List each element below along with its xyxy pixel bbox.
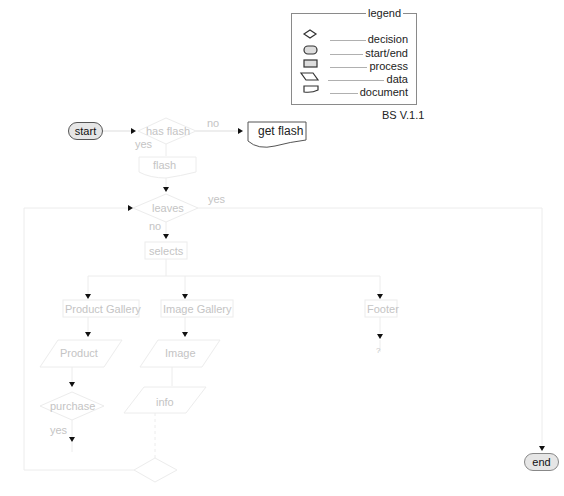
info-node[interactable]: info <box>156 396 174 409</box>
legend-item-decision: decision <box>292 33 416 46</box>
footer-next-node: ? <box>376 344 380 357</box>
edge-label-no: no <box>207 117 219 130</box>
flash-node[interactable]: flash <box>153 159 176 172</box>
leaves-node[interactable]: leaves <box>152 202 184 215</box>
flowchart-canvas <box>0 0 564 496</box>
edge-label-yes: yes <box>135 138 152 151</box>
image-node[interactable]: Image <box>165 347 196 360</box>
edge-label-no: no <box>149 220 161 233</box>
legend-item-start-end: start/end <box>292 47 416 60</box>
product-node[interactable]: Product <box>60 347 98 360</box>
image-gallery-node[interactable]: Image Gallery <box>163 303 231 316</box>
legend-box: legend decision start/end process data d… <box>291 13 417 105</box>
legend-label: data <box>385 73 408 85</box>
edge-label-yes: yes <box>208 193 225 206</box>
legend-label: start/end <box>363 47 408 59</box>
footer-node[interactable]: Footer <box>367 303 399 316</box>
version-label: BS V.1.1 <box>382 109 424 121</box>
legend-label: process <box>367 60 408 72</box>
get-flash-node[interactable]: get flash <box>258 125 303 138</box>
legend-label: document <box>358 86 408 98</box>
start-node[interactable]: start <box>68 122 103 140</box>
edge-label-yes: yes <box>50 424 67 437</box>
product-gallery-node[interactable]: Product Gallery <box>65 303 141 316</box>
selects-node[interactable]: selects <box>149 245 183 258</box>
end-node[interactable]: end <box>524 453 559 471</box>
legend-item-document: document <box>292 86 416 99</box>
has-flash-node[interactable]: has flash <box>146 125 190 138</box>
legend-item-process: process <box>292 60 416 73</box>
legend-title: legend <box>366 7 403 19</box>
legend-item-data: data <box>292 73 416 86</box>
purchase-node[interactable]: purchase <box>50 400 95 413</box>
legend-label: decision <box>366 33 408 45</box>
